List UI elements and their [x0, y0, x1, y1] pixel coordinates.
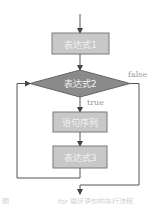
node-expr1-label: 表达式1: [64, 39, 97, 50]
node-statements-label: 语句序列: [62, 117, 98, 128]
caption-left: 图: [2, 196, 9, 204]
node-expr2-decision: 表达式2: [30, 70, 130, 97]
node-expr3: 表达式3: [53, 146, 107, 168]
flowchart: 表达式1 表达式2 false true 语句序列 表达式3: [0, 0, 156, 204]
node-statements: 语句序列: [53, 112, 107, 132]
node-expr3-label: 表达式3: [64, 152, 97, 163]
edge-label-false: false: [128, 70, 147, 79]
node-expr2-label: 表达式2: [64, 78, 97, 89]
figure-caption: 图 for 循环语句的执行流程: [0, 196, 156, 204]
node-expr1: 表达式1: [52, 33, 109, 54]
caption-right: for 循环语句的执行流程: [58, 196, 133, 204]
edge-label-true: true: [87, 98, 104, 107]
